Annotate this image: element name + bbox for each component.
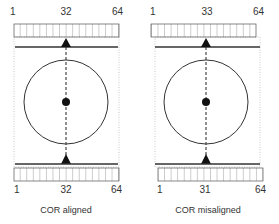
top-label-min: 1 xyxy=(10,6,16,17)
top-label-center: 32 xyxy=(60,6,72,17)
top-center-marker-icon xyxy=(201,38,211,47)
top-detector-array xyxy=(151,24,256,37)
bottom-label-min: 1 xyxy=(14,184,20,195)
bottom-label-center: 31 xyxy=(199,184,211,195)
bottom-label-max: 64 xyxy=(255,184,267,195)
bottom-center-marker-icon xyxy=(61,154,71,164)
bottom-detector-array xyxy=(158,168,263,181)
panel-cor-misaligned: 1 33 64 1 31 64 COR misaligned xyxy=(150,6,266,215)
panel-caption: COR misaligned xyxy=(175,205,241,215)
top-label-min: 1 xyxy=(150,6,156,17)
bottom-center-marker-icon xyxy=(201,154,211,164)
top-label-center: 33 xyxy=(201,6,213,17)
bottom-detector-array xyxy=(14,168,119,181)
cor-alignment-diagram: 1 32 64 1 32 64 COR aligned 1 33 xyxy=(0,0,279,224)
top-label-max: 64 xyxy=(253,6,265,17)
bottom-label-center: 32 xyxy=(60,184,72,195)
bottom-label-max: 64 xyxy=(111,184,123,195)
panel-caption: COR aligned xyxy=(40,205,92,215)
center-of-rotation-dot xyxy=(62,98,70,106)
panel-cor-aligned: 1 32 64 1 32 64 COR aligned xyxy=(10,6,123,215)
top-center-marker-icon xyxy=(61,38,71,47)
center-of-rotation-dot xyxy=(202,98,210,106)
top-label-max: 64 xyxy=(112,6,124,17)
top-detector-array xyxy=(14,24,119,37)
bottom-label-min: 1 xyxy=(157,184,163,195)
